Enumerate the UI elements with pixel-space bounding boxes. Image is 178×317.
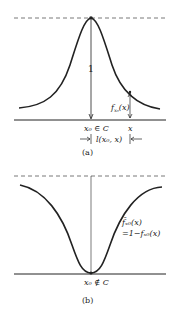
caption-a: (a) bbox=[82, 148, 93, 157]
figure-a: 1 fx₀(x) x₀ ∈ C x l(x₀, x) (a) bbox=[14, 16, 166, 157]
distance-arrow-right bbox=[131, 137, 142, 141]
function-label-b-line1: f̄ₓ₀(x) bbox=[121, 217, 142, 227]
trough-point bbox=[90, 272, 93, 275]
caption-b: (b) bbox=[82, 296, 93, 305]
figure-canvas: 1 fx₀(x) x₀ ∈ C x l(x₀, x) (a) f̄ₓ₀(x) =… bbox=[0, 0, 178, 317]
distance-arrow-left bbox=[80, 137, 90, 141]
figure-b: f̄ₓ₀(x) =1−fₓ₀(x) x₀ ∉ C (b) bbox=[14, 176, 166, 305]
distance-label: l(x₀, x) bbox=[96, 135, 122, 144]
curve-point-x bbox=[129, 91, 131, 93]
center-label-b: x₀ ∉ C bbox=[84, 278, 109, 287]
x-label: x bbox=[128, 124, 133, 133]
center-label-a: x₀ ∈ C bbox=[84, 124, 109, 133]
peak-point bbox=[89, 16, 93, 20]
height-label: 1 bbox=[88, 64, 94, 74]
function-label-a: fx₀(x) bbox=[110, 103, 130, 113]
function-label-b-line2: =1−fₓ₀(x) bbox=[122, 229, 160, 238]
